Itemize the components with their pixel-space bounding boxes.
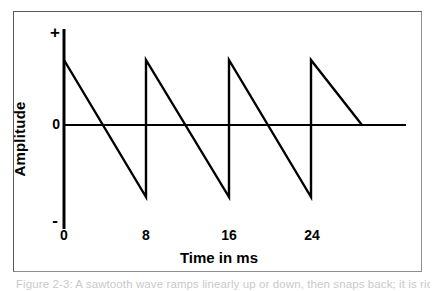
y-tick-label-positive: + <box>47 24 63 41</box>
x-tick-label-0: 0 <box>44 228 84 242</box>
x-tick-label-16: 16 <box>209 228 249 242</box>
y-tick-label-zero: 0 <box>42 117 60 131</box>
chart-plot-area: Amplitude + 0 - 0 8 16 24 Time in ms <box>14 12 423 273</box>
figure-frame: Amplitude + 0 - 0 8 16 24 Time in ms <box>13 11 422 272</box>
figure-caption: Figure 2-3: A sawtooth wave ramps linear… <box>16 277 430 291</box>
x-axis-title: Time in ms <box>134 250 304 265</box>
sawtooth-waveform-trace <box>64 60 362 197</box>
y-axis-title: Amplitude <box>12 84 27 194</box>
x-tick-label-8: 8 <box>126 228 166 242</box>
x-tick-label-24: 24 <box>292 228 332 242</box>
